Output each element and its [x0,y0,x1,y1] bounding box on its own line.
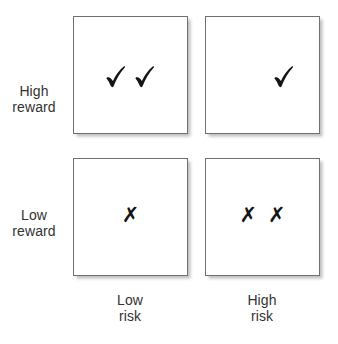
mark-group-checks [74,65,187,89]
check-mark-icon [134,65,156,89]
check-mark-icon [105,65,127,89]
column-label-low-risk-line1: Low [72,292,188,308]
risk-reward-matrix-figure: High reward Low reward Low risk High ris… [0,0,338,344]
column-label-low-risk: Low risk [72,292,188,324]
column-label-high-risk: High risk [204,292,320,324]
row-label-low-reward-line1: Low [0,207,68,223]
mark-group-crosses: ✗ [74,205,187,226]
matrix-cell-high-reward-low-risk [73,16,188,134]
row-label-low-reward: Low reward [0,207,68,239]
row-label-low-reward-line2: reward [0,223,68,239]
row-label-high-reward-line1: High [0,83,68,99]
column-label-low-risk-line2: risk [72,308,188,324]
check-mark-icon [273,65,295,89]
matrix-cell-low-reward-high-risk: ✗ ✗ [205,158,320,276]
column-label-high-risk-line1: High [204,292,320,308]
cross-mark-icon: ✗ [239,205,257,226]
matrix-cell-low-reward-low-risk: ✗ [73,158,188,276]
row-label-high-reward-line2: reward [0,99,68,115]
mark-group-checks [206,65,319,89]
column-label-high-risk-line2: risk [204,308,320,324]
mark-group-crosses: ✗ ✗ [206,205,319,226]
matrix-cell-high-reward-high-risk [205,16,320,134]
row-label-high-reward: High reward [0,83,68,115]
cross-mark-icon: ✗ [268,205,286,226]
cross-mark-icon: ✗ [122,205,140,226]
